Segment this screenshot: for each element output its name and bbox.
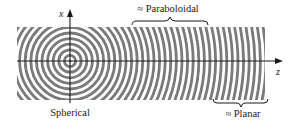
x-axis-label: x [58, 8, 64, 19]
planar-label: ≈ Planar [225, 108, 261, 119]
z-axis-label: z [275, 66, 280, 77]
z-axis-arrow-icon [275, 58, 283, 64]
planar-brace [213, 99, 268, 107]
wavefront-diagram: x z ≈ Paraboloidal ≈ Planar Spherical [0, 0, 296, 122]
paraboloidal-brace [132, 17, 208, 25]
x-axis-arrow-icon [67, 9, 73, 17]
spherical-label: Spherical [50, 107, 90, 118]
paraboloidal-label: ≈ Paraboloidal [137, 3, 199, 14]
